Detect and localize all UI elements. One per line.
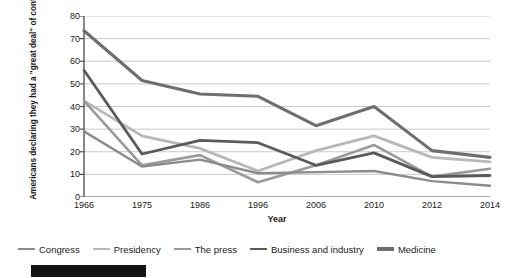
legend-label: Medicine <box>398 244 436 255</box>
plot-area <box>62 16 492 197</box>
legend-swatch-icon <box>174 248 191 251</box>
legend-swatch-icon <box>18 248 35 250</box>
legend-label: Congress <box>39 244 80 255</box>
legend-item-the-press[interactable]: The press <box>174 244 237 255</box>
x-tick-label: 1986 <box>190 200 210 210</box>
y-axis-title-text: Americans declaring they had a "great de… <box>29 18 39 200</box>
legend-item-medicine[interactable]: Medicine <box>377 244 436 255</box>
legend-swatch-icon <box>377 247 394 250</box>
legend-label: The press <box>195 244 237 255</box>
y-axis-title: Americans declaring they had a "great de… <box>6 14 62 204</box>
series-line-the-press <box>84 101 490 182</box>
x-tick-label: 1996 <box>248 200 268 210</box>
legend-item-business-and-industry[interactable]: Business and industry <box>250 244 364 255</box>
footer-black-bar <box>31 265 146 277</box>
x-tick-label: 1966 <box>74 200 94 210</box>
x-tick-label: 2014 <box>480 200 500 210</box>
legend-swatch-icon <box>250 248 267 251</box>
chart-legend: CongressPresidencyThe pressBusiness and … <box>18 240 498 258</box>
legend-swatch-icon <box>93 248 110 251</box>
x-tick-label: 1975 <box>132 200 152 210</box>
x-axis-title: Year <box>62 214 492 224</box>
legend-label: Presidency <box>114 244 161 255</box>
chart-figure: Americans declaring they had a "great de… <box>0 0 507 278</box>
series-line-medicine <box>84 31 490 158</box>
series-line-congress <box>84 131 490 185</box>
legend-item-congress[interactable]: Congress <box>18 244 80 255</box>
legend-item-presidency[interactable]: Presidency <box>93 244 161 255</box>
legend-label: Business and industry <box>271 244 364 255</box>
x-tick-label: 2012 <box>422 200 442 210</box>
x-tick-label: 2006 <box>306 200 326 210</box>
x-axis-tick-labels: 19661975198619962006201020122014 <box>62 200 492 214</box>
line-chart-svg <box>62 16 492 197</box>
x-tick-label: 2010 <box>364 200 384 210</box>
